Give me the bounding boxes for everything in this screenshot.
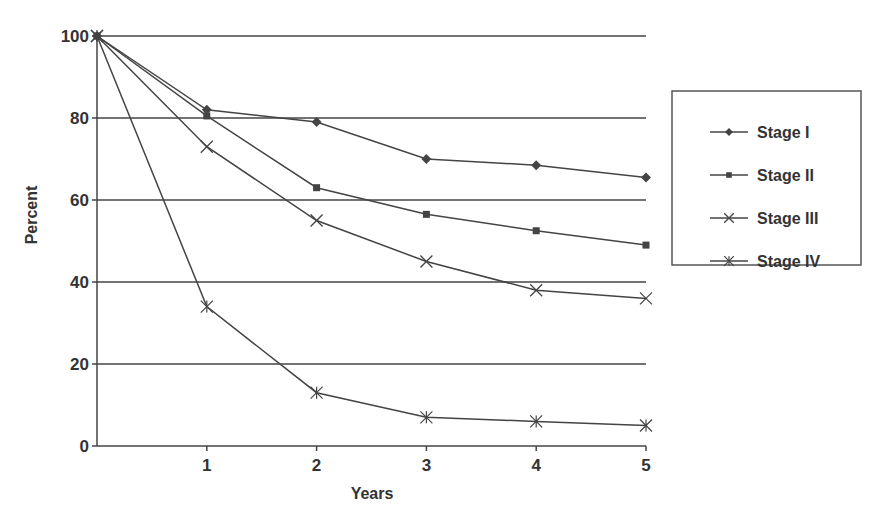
- survival-chart: 020406080100 12345 Years Percent Stage I…: [0, 0, 887, 515]
- x-tick-label: 5: [641, 456, 650, 475]
- x-tick-label: 2: [312, 456, 321, 475]
- legend-label: Stage II: [757, 167, 814, 184]
- x-tick-label: 1: [202, 456, 211, 475]
- x-marker-icon: [420, 256, 432, 268]
- y-tick-label: 80: [70, 109, 89, 128]
- y-tick-label: 40: [70, 273, 89, 292]
- x-marker-icon: [201, 141, 213, 153]
- gridlines: [97, 36, 646, 364]
- y-tick-label: 100: [61, 27, 89, 46]
- y-tick-label: 60: [70, 191, 89, 210]
- series-stage-iii: [91, 30, 652, 304]
- data-series: [91, 30, 652, 432]
- series-line: [97, 36, 646, 426]
- square-marker-icon: [726, 172, 732, 178]
- diamond-marker-icon: [531, 160, 541, 170]
- x-tick-label: 3: [422, 456, 431, 475]
- x-axis-tick-labels: 12345: [202, 456, 651, 475]
- y-tick-label: 0: [80, 437, 89, 456]
- asterisk-marker-icon: [311, 387, 323, 399]
- square-marker-icon: [533, 227, 540, 234]
- legend-label: Stage III: [757, 210, 818, 227]
- series-line: [97, 36, 646, 177]
- x-axis-title: Years: [351, 485, 394, 502]
- asterisk-marker-icon: [201, 301, 213, 313]
- diamond-marker-icon: [421, 154, 431, 164]
- square-marker-icon: [313, 184, 320, 191]
- series-stage-i: [92, 31, 651, 182]
- diamond-marker-icon: [641, 172, 651, 182]
- y-axis-tick-labels: 020406080100: [61, 27, 89, 456]
- axes: [92, 36, 646, 451]
- y-axis-title: Percent: [23, 185, 40, 244]
- square-marker-icon: [643, 242, 650, 249]
- x-tick-label: 4: [531, 456, 541, 475]
- square-marker-icon: [203, 112, 210, 119]
- y-tick-label: 20: [70, 355, 89, 374]
- square-marker-icon: [423, 211, 430, 218]
- series-stage-iv: [91, 30, 652, 432]
- legend: Stage IStage IIStage IIIStage IV: [672, 91, 861, 270]
- legend-label: Stage IV: [757, 253, 820, 270]
- series-line: [97, 36, 646, 298]
- x-marker-icon: [311, 215, 323, 227]
- legend-label: Stage I: [757, 124, 809, 141]
